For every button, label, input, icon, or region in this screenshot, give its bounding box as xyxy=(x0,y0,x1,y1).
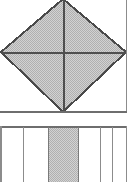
upper-panel xyxy=(0,0,127,112)
lower-panel xyxy=(0,126,127,182)
geometric-figure xyxy=(0,0,132,182)
figure-canvas xyxy=(0,0,132,182)
strip-shaded xyxy=(48,127,78,182)
